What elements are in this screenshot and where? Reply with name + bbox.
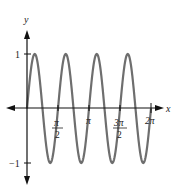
x-axis-left-arrow-icon xyxy=(6,105,15,111)
x-tick-pi-half-num: π xyxy=(54,118,59,128)
y-axis-down-arrow-icon xyxy=(24,176,30,185)
y-axis-label: y xyxy=(23,14,29,25)
y-axis-up-arrow-icon xyxy=(24,30,30,39)
x-tick-3pi-half-den: 2 xyxy=(117,130,122,140)
x-tick-2pi: 2π xyxy=(145,116,155,126)
x-tick-3pi-half-num: 3π xyxy=(113,118,124,128)
x-tick-pi: π xyxy=(86,116,91,126)
x-axis-right-arrow-icon xyxy=(155,105,164,111)
y-tick-neg1: −1 xyxy=(9,158,20,169)
x-axis: x π 2 π 3π 2 2π xyxy=(6,103,171,140)
sine-chart: y 1 −1 x π 2 π 3π 2 2π xyxy=(0,0,171,185)
x-axis-label: x xyxy=(165,103,171,114)
x-tick-pi-half-den: 2 xyxy=(55,130,60,140)
y-tick-1: 1 xyxy=(15,49,20,60)
